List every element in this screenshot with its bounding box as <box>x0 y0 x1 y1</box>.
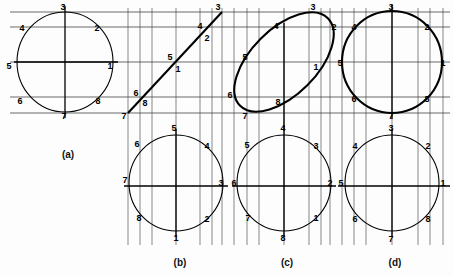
point-label-b-auxiliary-view-3: 3 <box>218 178 223 188</box>
point-label-d-auxiliary-view-8: 8 <box>425 214 430 224</box>
point-label-a-front-view-5: 5 <box>6 61 11 71</box>
point-label-c-front-view-ellipse-1: 1 <box>313 62 318 72</box>
point-label-d-auxiliary-view-2: 2 <box>425 141 430 151</box>
point-label-c-auxiliary-view-7: 7 <box>245 213 250 223</box>
point-label-d-front-view-circle-1: 1 <box>440 58 445 68</box>
point-label-b-auxiliary-view-7: 7 <box>122 175 127 185</box>
point-label-b-top-view-edge-1: 1 <box>175 64 180 74</box>
point-label-c-front-view-ellipse-2: 2 <box>331 22 336 32</box>
point-label-c-front-view-ellipse-8: 8 <box>275 97 280 107</box>
point-label-b-top-view-edge-8: 8 <box>142 98 147 108</box>
point-label-d-front-view-circle-5: 5 <box>337 58 342 68</box>
point-label-a-front-view-1: 1 <box>107 61 112 71</box>
point-label-d-auxiliary-view-3: 3 <box>388 123 393 133</box>
point-label-a-front-view-6: 6 <box>17 96 22 106</box>
point-label-a-front-view-3: 3 <box>60 2 65 12</box>
point-label-d-front-view-circle-7: 7 <box>388 111 393 121</box>
point-label-c-auxiliary-view-1: 1 <box>313 213 318 223</box>
point-label-b-top-view-edge-2: 2 <box>204 33 209 43</box>
point-label-a-front-view-4: 4 <box>19 23 24 33</box>
point-label-a-front-view-7: 7 <box>61 111 66 121</box>
point-label-b-auxiliary-view-8: 8 <box>136 213 141 223</box>
point-label-c-auxiliary-view-8: 8 <box>280 233 285 243</box>
point-label-b-auxiliary-view-1: 1 <box>173 233 178 243</box>
caption-a: (a) <box>62 149 74 160</box>
point-label-c-auxiliary-view-3: 3 <box>313 141 318 151</box>
point-label-d-auxiliary-view-7: 7 <box>388 234 393 244</box>
point-label-d-auxiliary-view-1: 1 <box>440 178 445 188</box>
point-label-d-auxiliary-view-4: 4 <box>352 141 357 151</box>
point-label-b-auxiliary-view-6: 6 <box>134 139 139 149</box>
point-label-d-front-view-circle-4: 4 <box>351 22 356 32</box>
point-label-d-front-view-circle-2: 2 <box>424 22 429 32</box>
point-label-c-auxiliary-view-5: 5 <box>244 140 249 150</box>
point-label-b-auxiliary-view-2: 2 <box>204 214 209 224</box>
point-label-c-front-view-ellipse-3: 3 <box>310 2 315 12</box>
point-label-c-auxiliary-view-6: 6 <box>231 178 236 188</box>
caption-d: (d) <box>389 257 402 268</box>
caption-c: (c) <box>281 257 293 268</box>
point-label-a-front-view-2: 2 <box>94 23 99 33</box>
point-label-b-auxiliary-view-4: 4 <box>204 141 209 151</box>
point-label-d-auxiliary-view-5: 5 <box>338 178 343 188</box>
point-label-b-top-view-edge-7: 7 <box>121 111 126 121</box>
point-label-c-front-view-ellipse-4: 4 <box>273 21 278 31</box>
point-label-d-front-view-circle-8: 8 <box>424 94 429 104</box>
engineering-drawing-figure: 1234567812345678123456781234567812345678… <box>0 0 453 276</box>
point-label-b-top-view-edge-6: 6 <box>133 88 138 98</box>
point-label-c-front-view-ellipse-5: 5 <box>242 52 247 62</box>
point-label-d-front-view-circle-6: 6 <box>351 94 356 104</box>
point-label-b-top-view-edge-5: 5 <box>167 52 172 62</box>
figure-canvas: 1234567812345678123456781234567812345678… <box>0 0 453 276</box>
point-label-c-front-view-ellipse-7: 7 <box>242 111 247 121</box>
point-label-c-auxiliary-view-2: 2 <box>327 178 332 188</box>
point-label-b-top-view-edge-3: 3 <box>215 2 220 12</box>
point-label-b-top-view-edge-4: 4 <box>197 21 202 31</box>
point-label-a-front-view-8: 8 <box>95 96 100 106</box>
figure-background <box>0 0 453 276</box>
point-label-d-front-view-circle-3: 3 <box>388 2 393 12</box>
point-label-c-front-view-ellipse-6: 6 <box>227 90 232 100</box>
point-label-d-auxiliary-view-6: 6 <box>352 214 357 224</box>
caption-b: (b) <box>174 257 187 268</box>
point-label-c-auxiliary-view-4: 4 <box>280 123 285 133</box>
point-label-b-auxiliary-view-5: 5 <box>171 123 176 133</box>
